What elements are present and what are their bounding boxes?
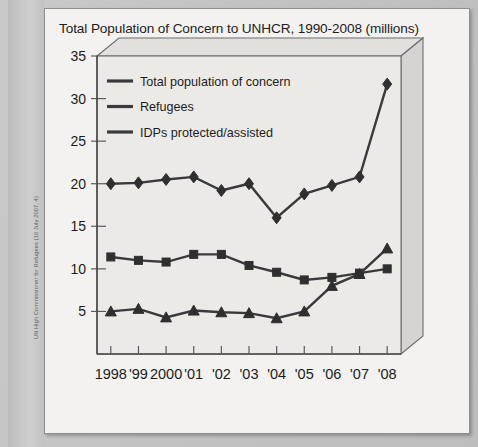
- x-tick-label: '05: [295, 366, 314, 382]
- x-tick-label: 2000: [150, 366, 182, 382]
- y-tick-label: 25: [70, 133, 86, 149]
- legend-label-1: Refugees: [140, 100, 194, 114]
- plot-right-face: [401, 38, 423, 354]
- x-tick-label: '07: [350, 366, 369, 382]
- figure-card: Total Population of Concern to UNHCR, 19…: [44, 8, 470, 434]
- y-tick-label: 5: [78, 303, 86, 319]
- data-point-square: [300, 276, 308, 284]
- x-tick-label: '01: [184, 366, 203, 382]
- plot-top-face: [97, 38, 423, 56]
- x-tick-label: '08: [378, 366, 397, 382]
- y-tick-label: 30: [70, 91, 86, 107]
- scanned-page: UN High Commissioner for Refugees (16 Ju…: [0, 0, 478, 447]
- page-gutter: UN High Commissioner for Refugees (16 Ju…: [8, 0, 44, 447]
- x-tick-label: '02: [212, 366, 231, 382]
- data-point-square: [162, 258, 170, 266]
- y-tick-label: 10: [70, 261, 86, 277]
- chart-plot-area: 51015202530351998'992000'01'02'03'04'05'…: [45, 9, 469, 433]
- x-tick-label: '04: [267, 366, 286, 382]
- data-point-square: [190, 250, 198, 258]
- x-tick-label: 1998: [95, 366, 127, 382]
- data-point-square: [383, 265, 391, 273]
- x-tick-label: '99: [129, 366, 148, 382]
- x-tick-label: '06: [322, 366, 341, 382]
- data-point-square: [217, 250, 225, 258]
- y-tick-label: 20: [70, 176, 86, 192]
- data-point-square: [245, 261, 253, 269]
- y-tick-label: 15: [70, 218, 86, 234]
- source-caption: UN High Commissioner for Refugees (16 Ju…: [33, 159, 39, 339]
- line-chart: 51015202530351998'992000'01'02'03'04'05'…: [45, 9, 469, 433]
- y-tick-label: 35: [70, 48, 86, 64]
- data-point-square: [107, 253, 115, 261]
- legend-label-2: IDPs protected/assisted: [140, 126, 273, 140]
- data-point-square: [273, 268, 281, 276]
- x-tick-label: '03: [240, 366, 259, 382]
- legend-label-0: Total population of concern: [140, 75, 291, 89]
- data-point-square: [134, 256, 142, 264]
